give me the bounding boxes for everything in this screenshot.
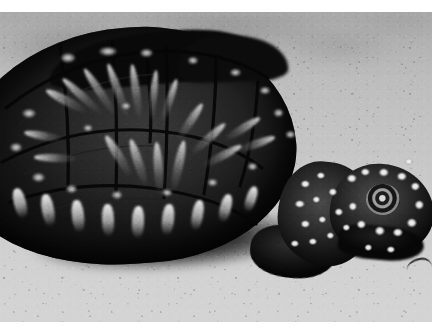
- carapace-blotch: [96, 46, 120, 58]
- skin-spot: [392, 228, 404, 238]
- carapace-blotch: [64, 184, 79, 195]
- carapace-blotch: [272, 108, 285, 119]
- skin-spot: [312, 196, 321, 204]
- skin-spot: [364, 244, 373, 252]
- carapace-blotch: [58, 52, 78, 65]
- marginal-scute: [101, 204, 114, 236]
- carapace-blotch: [30, 172, 47, 184]
- skin-spot: [342, 224, 351, 232]
- carapace-blotch: [206, 178, 219, 188]
- carapace-blotch: [258, 86, 272, 96]
- skin-spot: [328, 188, 338, 197]
- carapace-blotch: [246, 162, 259, 172]
- skin-spot: [404, 158, 414, 166]
- skin-spot: [308, 238, 318, 246]
- skin-spot: [396, 172, 408, 182]
- carapace-blotch: [110, 190, 124, 201]
- carapace-blotch: [160, 188, 174, 198]
- skin-spot: [406, 218, 418, 229]
- skin-spot: [290, 240, 300, 248]
- skin-spot: [348, 202, 358, 212]
- skin-spot: [318, 216, 327, 224]
- photo-frame: dark shell with radiating pale streaks i…: [0, 0, 448, 336]
- carapace-blotch: [138, 48, 155, 59]
- carapace-blotch: [82, 124, 94, 133]
- skin-spot: [326, 232, 335, 240]
- skin-spot: [414, 200, 425, 211]
- carapace-blotch: [20, 108, 38, 120]
- skin-spot: [356, 220, 367, 230]
- box-turtle: [0, 12, 432, 322]
- carapace-blotch: [284, 130, 297, 140]
- carapace-blotch: [186, 56, 200, 66]
- skin-spot: [386, 246, 396, 254]
- carapace-blotch: [228, 68, 243, 78]
- skin-spot: [294, 200, 306, 209]
- eye: [366, 184, 400, 215]
- skin-spot: [410, 182, 421, 192]
- photo-description: dark shell with radiating pale streaks i…: [0, 0, 1, 1]
- skin-spot: [316, 172, 326, 180]
- skin-spot: [300, 220, 311, 229]
- skin-spot: [300, 180, 311, 189]
- skin-spot: [374, 226, 386, 237]
- skin-spot: [378, 168, 390, 178]
- carapace-blotch: [8, 142, 24, 154]
- skin-spot: [360, 168, 371, 177]
- skin-spot: [334, 208, 344, 217]
- photograph: [0, 12, 432, 322]
- carapace-blotch: [120, 102, 132, 111]
- skin-spot: [346, 174, 358, 184]
